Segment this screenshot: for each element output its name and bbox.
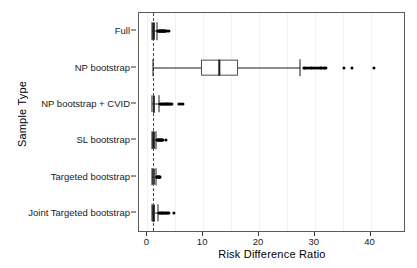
median-line [152,168,153,185]
x-axis-title: Risk Difference Ratio [138,248,406,260]
x-tick-label: 20 [253,236,264,247]
gridline [203,13,204,231]
y-tick-mark [131,211,136,212]
outlier-point [324,66,327,69]
outlier-point [170,102,173,105]
outlier-point [164,139,167,142]
y-tick-mark [131,30,136,31]
whisker-low [153,67,201,68]
gridline [315,13,316,231]
outlier-point [159,175,162,178]
y-tick-label: Joint Targeted bootstrap [28,206,130,217]
y-tick-label: NP bootstrap + CVID [41,97,130,108]
gridline [287,13,288,231]
x-tick-label: 40 [364,236,375,247]
y-tick-mark [131,175,136,176]
median-line [153,204,154,221]
whisker-high [238,67,300,68]
x-tick-label: 0 [144,236,149,247]
median-line [219,59,220,76]
y-tick-label: SL bootstrap [76,134,130,145]
median-line [153,132,154,149]
gridline [371,13,372,231]
gridline [231,13,232,231]
whisker-cap-high [300,59,301,77]
outlier-point [181,102,184,105]
outlier-point [350,66,353,69]
x-tick-label: 30 [308,236,319,247]
y-tick-mark [131,66,136,67]
whisker-cap-low [152,59,153,77]
y-tick-label: NP bootstrap [75,61,130,72]
median-line [153,23,154,40]
outlier-point [372,66,375,69]
plot-panel [138,12,405,232]
boxplot-figure: Sample Type FullNP bootstrapNP bootstrap… [0,0,417,268]
y-axis-tick-labels: FullNP bootstrapNP bootstrap + CVIDSL bo… [0,0,130,268]
reference-line [153,13,154,231]
gridline [259,13,260,231]
outlier-point [168,211,171,214]
gridline [147,13,148,231]
y-tick-label: Full [115,25,130,36]
y-tick-label: Targeted bootstrap [51,170,130,181]
x-tick-label: 10 [197,236,208,247]
outlier-point [167,30,170,33]
outlier-point [343,66,346,69]
gridline [175,13,176,231]
y-tick-mark [131,139,136,140]
median-line [153,95,154,112]
gridline [343,13,344,231]
y-tick-mark [131,102,136,103]
